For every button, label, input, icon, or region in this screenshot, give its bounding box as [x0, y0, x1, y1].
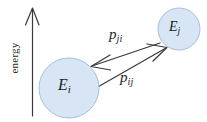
lower-state-subscript: i — [68, 83, 71, 95]
lower-state-symbol: E — [58, 76, 68, 93]
downward-transition-subscript: ji — [117, 33, 123, 44]
downward-transition-label: pji — [109, 27, 122, 45]
upward-transition-label: pij — [120, 70, 133, 88]
upper-state-symbol: E — [169, 19, 178, 34]
lower-state-label: Ei — [58, 77, 71, 95]
energy-axis-arrow — [26, 8, 40, 116]
downward-transition-line — [92, 43, 160, 66]
downward-transition-arrow — [91, 43, 160, 70]
upward-transition-symbol: p — [120, 69, 128, 85]
downward-transition-symbol: p — [109, 26, 117, 42]
upper-state-label: Ej — [169, 20, 180, 37]
upward-transition-subscript: ij — [128, 76, 134, 87]
energy-axis-label: energy — [8, 28, 20, 88]
upper-state-subscript: j — [178, 26, 181, 36]
energy-level-transition-diagram: energy Ei Ej pji pij — [0, 0, 207, 122]
